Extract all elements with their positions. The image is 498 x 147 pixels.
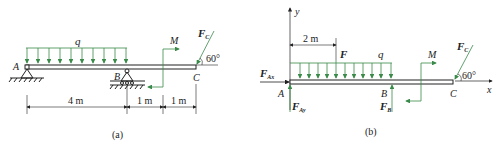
fax-label: FAx bbox=[259, 67, 274, 80]
y-axis-label: y bbox=[294, 6, 300, 17]
q-label: q bbox=[75, 35, 81, 47]
beam-b bbox=[290, 80, 453, 84]
f-label: F bbox=[339, 48, 348, 60]
x-axis-label: x bbox=[486, 84, 492, 95]
caption-a: (a) bbox=[112, 129, 123, 141]
angle-arc bbox=[200, 58, 202, 65]
figure-a: q A B bbox=[9, 27, 220, 141]
dim-1m-first: 1 m bbox=[137, 95, 153, 106]
dim-2m: 2 m bbox=[303, 33, 319, 44]
fay-label: FAy bbox=[291, 100, 306, 113]
distributed-load-q-b bbox=[290, 60, 392, 78]
label-c-b: C bbox=[450, 88, 457, 99]
label-b: B bbox=[114, 71, 120, 82]
angle-label-b: 60° bbox=[462, 70, 476, 81]
label-c: C bbox=[193, 72, 200, 83]
dim-4m: 4 m bbox=[68, 95, 84, 106]
label-a-b: A bbox=[277, 88, 285, 99]
fc-label-b: FC bbox=[456, 40, 469, 53]
m-label: M bbox=[169, 35, 179, 46]
fb-label: FB bbox=[379, 100, 391, 113]
caption-b: (b) bbox=[365, 126, 377, 138]
angle-arc-b bbox=[458, 74, 461, 81]
label-a: A bbox=[12, 61, 20, 72]
fc-label: FC bbox=[197, 27, 210, 40]
beam-a bbox=[26, 65, 196, 69]
m-label-b: M bbox=[427, 49, 437, 60]
figure-b: y x 2 m F q FAx FAy bbox=[259, 6, 492, 138]
distributed-load-q bbox=[26, 48, 127, 63]
label-b-b: B bbox=[381, 88, 387, 99]
dim-1m-second: 1 m bbox=[171, 95, 187, 106]
angle-label: 60° bbox=[206, 53, 220, 64]
q-label-b: q bbox=[378, 48, 384, 60]
beam-diagrams: q A B bbox=[0, 0, 498, 147]
